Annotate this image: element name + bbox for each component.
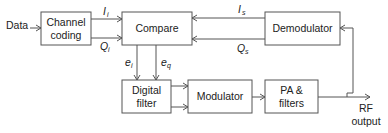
channel-coding-block: Channel coding — [41, 12, 91, 45]
svg-text:s: s — [245, 48, 249, 55]
feedback-line — [340, 28, 353, 93]
data-input-label: Data — [6, 19, 28, 31]
qi-label: Q i — [100, 40, 110, 53]
pa-filters-label-1: PA & — [280, 84, 303, 96]
demodulator-label: Demodulator — [272, 22, 333, 34]
digital-filter-label-2: filter — [137, 97, 157, 109]
ei-label: e i — [125, 56, 133, 69]
svg-text:i: i — [107, 11, 109, 18]
compare-block: Compare — [122, 12, 192, 45]
rf-output-label-1: RF — [359, 102, 373, 114]
eq-label: e q — [161, 56, 171, 70]
channel-coding-label-1: Channel — [46, 16, 85, 28]
svg-text:I: I — [103, 5, 106, 17]
svg-text:i: i — [108, 46, 110, 53]
svg-text:q: q — [167, 62, 171, 70]
digital-filter-label-1: Digital — [132, 84, 161, 96]
rf-output-label-2: output — [351, 115, 380, 127]
block-diagram: Data Channel coding I i Q i Compare I s … — [0, 0, 388, 133]
digital-filter-block: Digital filter — [122, 80, 171, 113]
channel-coding-label-2: coding — [51, 29, 82, 41]
svg-text:I: I — [238, 3, 241, 15]
pa-filters-label-2: filters — [279, 97, 304, 109]
modulator-block: Modulator — [188, 80, 252, 113]
pa-filters-block: PA & filters — [265, 80, 318, 113]
qs-label: Q s — [237, 42, 249, 55]
svg-text:s: s — [242, 9, 246, 16]
ii-label: I i — [103, 5, 109, 18]
demodulator-block: Demodulator — [265, 12, 340, 45]
modulator-label: Modulator — [197, 90, 244, 102]
compare-label: Compare — [135, 22, 178, 34]
svg-text:Q: Q — [237, 42, 245, 54]
is-label: I s — [238, 3, 246, 16]
svg-text:Q: Q — [100, 40, 108, 52]
svg-text:i: i — [131, 62, 133, 69]
